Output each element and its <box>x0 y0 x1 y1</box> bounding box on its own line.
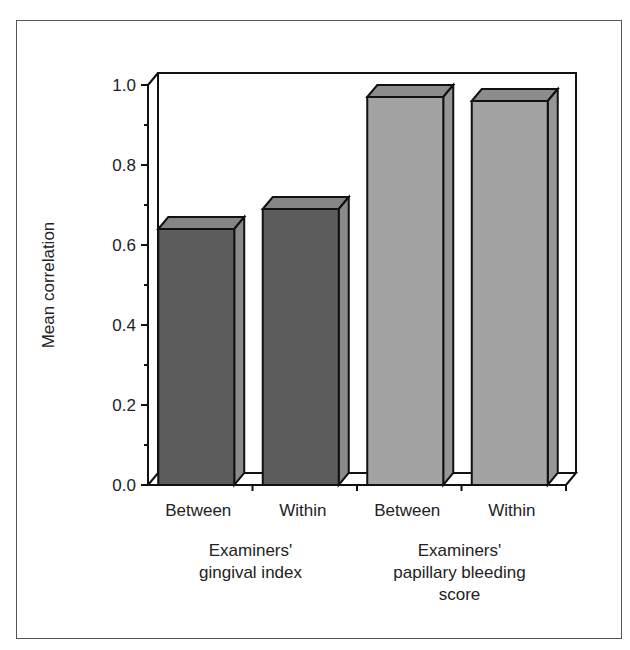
group-label-line: Examiners' <box>209 541 293 560</box>
y-axis-top <box>148 73 158 85</box>
x-category-label: Within <box>488 501 535 520</box>
bar-top <box>263 197 349 209</box>
group-label-line: Examiners' <box>418 541 502 560</box>
x-category-label: Within <box>279 501 326 520</box>
bar-front <box>158 229 234 485</box>
bar-top <box>367 85 453 97</box>
bar-side <box>339 197 349 485</box>
y-tick-label: 0.4 <box>112 316 136 335</box>
bar-side <box>548 89 558 485</box>
group-label-line: gingival index <box>199 563 303 582</box>
y-axis-title: Mean correlation <box>39 222 58 349</box>
group-label-line: score <box>439 585 481 604</box>
bar-top <box>472 89 558 101</box>
bar <box>263 197 349 485</box>
bar-front <box>263 209 339 485</box>
group-label-line: papillary bleeding <box>393 563 525 582</box>
x-category-label: Between <box>165 501 231 520</box>
y-tick-label: 0.6 <box>112 236 136 255</box>
bar <box>158 217 244 485</box>
x-category-label: Between <box>374 501 440 520</box>
bar <box>367 85 453 485</box>
bar-side <box>234 217 244 485</box>
y-tick-label: 1.0 <box>112 76 136 95</box>
bar-chart: 0.00.20.40.60.81.0Mean correlationBetwee… <box>0 0 630 650</box>
y-tick-label: 0.8 <box>112 156 136 175</box>
bar-side <box>443 85 453 485</box>
bar <box>472 89 558 485</box>
bars <box>158 85 558 485</box>
y-tick-label: 0.0 <box>112 476 136 495</box>
y-tick-label: 0.2 <box>112 396 136 415</box>
bar-front <box>472 101 548 485</box>
bar-front <box>367 97 443 485</box>
bar-top <box>158 217 244 229</box>
